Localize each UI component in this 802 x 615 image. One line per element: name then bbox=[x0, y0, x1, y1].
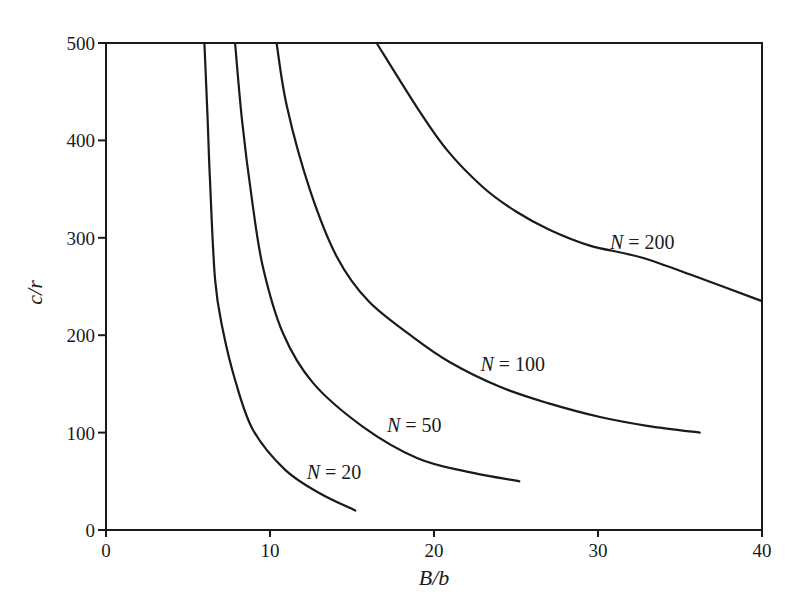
plot-frame bbox=[106, 43, 762, 530]
curve-n20 bbox=[204, 43, 355, 511]
chart: 010203040 0100200300400500 N = 20N = 50N… bbox=[0, 0, 802, 615]
x-tick-label: 30 bbox=[589, 540, 608, 561]
curves-group bbox=[204, 43, 762, 511]
y-tick-label: 400 bbox=[67, 130, 96, 151]
curve-label: N = 20 bbox=[306, 461, 362, 483]
x-tick-label: 10 bbox=[261, 540, 280, 561]
y-tick-label: 200 bbox=[67, 325, 96, 346]
y-tick-label: 100 bbox=[67, 423, 96, 444]
y-tick-label: 0 bbox=[86, 520, 96, 541]
curve-n50 bbox=[235, 43, 519, 481]
x-tick-label: 0 bbox=[101, 540, 111, 561]
curve-label: N = 100 bbox=[479, 353, 545, 375]
y-axis-label: c/r bbox=[22, 280, 47, 305]
y-tick-label: 500 bbox=[67, 33, 96, 54]
x-tick-label: 20 bbox=[425, 540, 444, 561]
x-axis-ticks: 010203040 bbox=[101, 530, 771, 561]
y-tick-label: 300 bbox=[67, 228, 96, 249]
curve-n200 bbox=[377, 43, 762, 301]
x-tick-label: 40 bbox=[753, 540, 772, 561]
curve-label: N = 50 bbox=[386, 414, 442, 436]
y-axis-ticks: 0100200300400500 bbox=[67, 33, 107, 541]
x-axis-label: B/b bbox=[419, 565, 450, 590]
curve-label: N = 200 bbox=[609, 231, 675, 253]
curve-labels-group: N = 20N = 50N = 100N = 200 bbox=[306, 231, 675, 483]
